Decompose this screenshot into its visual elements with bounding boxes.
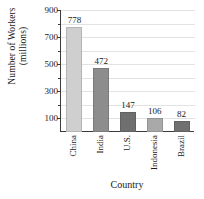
bar-slot: 147: [115, 10, 142, 132]
bar-slot: 472: [88, 10, 115, 132]
y-axis-tick-label: 900: [34, 6, 58, 15]
x-axis-tick-label: U.S.: [122, 135, 131, 151]
x-axis-tick-label-wrap: Indonesia: [140, 132, 167, 178]
bar-value-label: 778: [68, 16, 82, 25]
x-axis-tick-label: Brazil: [176, 135, 185, 157]
x-axis-tick-label: India: [96, 135, 105, 154]
bar-series: 77847214710682: [61, 10, 195, 132]
bar-value-label: 147: [121, 101, 135, 110]
y-axis-tick-label: 300: [34, 87, 58, 96]
x-axis-tick-label: China: [69, 135, 78, 157]
bar: [147, 118, 163, 132]
y-axis-tick-label: 500: [34, 60, 58, 69]
y-axis-tick-label: 100: [34, 114, 58, 123]
y-axis-title: Number of Workers (millions): [7, 0, 35, 100]
bar: [120, 112, 136, 132]
x-axis-title: Country: [60, 179, 194, 190]
bar-value-label: 106: [148, 107, 162, 116]
y-axis-title-line-1: Number of Workers: [7, 0, 18, 100]
bar: [174, 121, 190, 132]
x-axis-tick-label-wrap: China: [60, 132, 87, 178]
y-axis-tick-labels: 900700500300100: [34, 10, 58, 122]
x-axis-tick-label-wrap: Brazil: [167, 132, 194, 178]
bar-slot: 106: [141, 10, 168, 132]
bar-slot: 82: [168, 10, 195, 132]
bar-value-label: 82: [177, 110, 186, 119]
bar: [93, 68, 109, 132]
bar-slot: 778: [61, 10, 88, 132]
x-axis-tick-label-wrap: India: [87, 132, 114, 178]
x-axis-tick-label: Indonesia: [149, 135, 158, 170]
bar-chart: Number of Workers (millions) 90070050030…: [0, 0, 204, 199]
y-axis-title-line-2: (millions): [18, 0, 29, 100]
x-axis-tick-label-wrap: U.S.: [114, 132, 141, 178]
bar: [66, 27, 82, 132]
y-axis-tick-label: 700: [34, 33, 58, 42]
plot-area: 77847214710682: [60, 10, 194, 132]
x-axis-tick-labels: ChinaIndiaU.S.IndonesiaBrazil: [60, 132, 194, 178]
bar-value-label: 472: [94, 57, 108, 66]
